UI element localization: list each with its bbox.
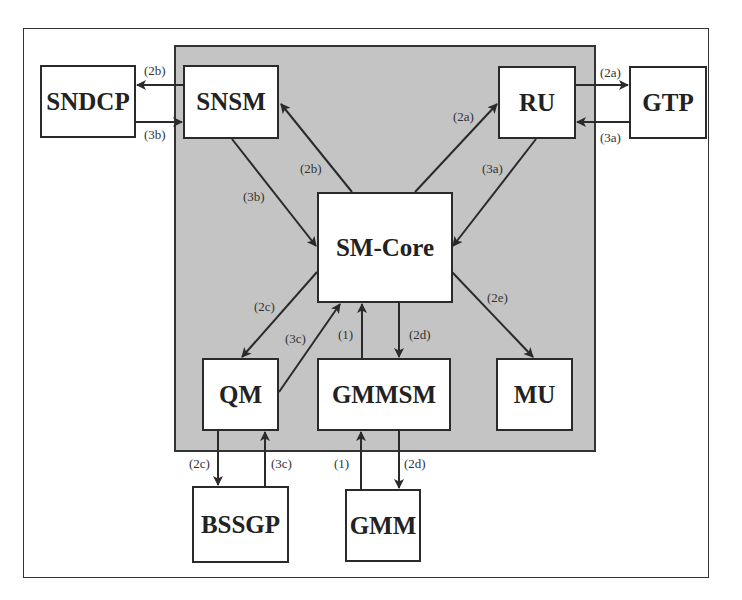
node-gmmsm: GMMSM: [317, 358, 451, 431]
edge-label: (3b): [144, 128, 166, 141]
edge-label: (2a): [600, 66, 621, 79]
node-gmm: GMM: [345, 489, 421, 562]
node-ru: RU: [498, 66, 576, 139]
node-sndcp: SNDCP: [40, 65, 136, 138]
edge-label: (1): [334, 457, 349, 470]
edge-label: (2c): [189, 457, 210, 470]
node-bssgp: BSSGP: [192, 486, 289, 563]
node-label: SNSM: [196, 88, 265, 116]
node-qm: QM: [202, 358, 279, 431]
node-label: RU: [519, 89, 555, 117]
edge-label: (2d): [409, 328, 431, 341]
node-label: SM-Core: [336, 234, 434, 262]
node-label: GTP: [642, 89, 693, 117]
node-label: QM: [219, 381, 262, 409]
edge-label: (2d): [404, 457, 426, 470]
edge-label: (3a): [482, 162, 503, 175]
node-snsm: SNSM: [183, 65, 279, 139]
node-label: SNDCP: [46, 88, 129, 116]
edge-label: (2c): [254, 300, 275, 313]
edge-label: (3b): [243, 190, 265, 203]
node-label: BSSGP: [201, 511, 280, 539]
node-mu: MU: [496, 358, 573, 431]
edge-label: (3a): [600, 131, 621, 144]
node-label: GMMSM: [332, 381, 436, 409]
edge-label: (2a): [453, 110, 474, 123]
edge-label: (2b): [300, 162, 322, 175]
arrow-smcore-to-snsm: [281, 104, 352, 192]
node-label: MU: [514, 381, 556, 409]
edge-label: (2b): [144, 64, 166, 77]
edge-label: (3c): [271, 457, 292, 470]
node-gtp: GTP: [629, 66, 707, 139]
node-sm-core: SM-Core: [317, 192, 453, 303]
edge-label: (3c): [285, 332, 306, 345]
arrow-smcore-to-mu: [452, 272, 533, 357]
node-label: GMM: [350, 512, 417, 540]
edge-label: (1): [338, 328, 353, 341]
arrow-ru-to-smcore: [453, 139, 536, 246]
edge-label: (2e): [487, 291, 508, 304]
